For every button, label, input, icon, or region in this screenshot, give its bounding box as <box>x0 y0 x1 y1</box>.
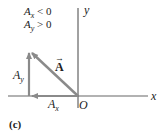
vector-a-label: → A <box>55 61 64 73</box>
origin-label: O <box>79 99 88 111</box>
x-axis-label: x <box>151 90 156 102</box>
vector-arrow-icon: → <box>55 52 64 64</box>
ax-label: Ax <box>48 98 59 115</box>
condition-ay: Ay > 0 <box>24 18 52 35</box>
ay-label: Ay <box>13 69 24 86</box>
y-axis-label: y <box>84 4 89 16</box>
panel-label: (c) <box>9 118 21 130</box>
